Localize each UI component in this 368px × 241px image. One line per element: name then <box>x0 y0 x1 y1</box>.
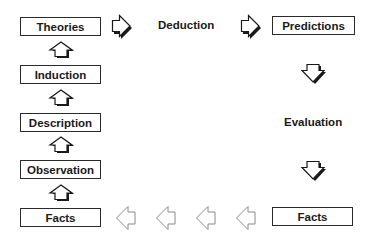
left-arrow-icon <box>155 205 177 231</box>
label-evaluation: Evaluation <box>284 116 342 128</box>
box-induction: Induction <box>20 65 101 84</box>
right-arrow-icon <box>111 14 133 40</box>
box-facts-right: Facts <box>272 207 353 226</box>
left-arrow-icon <box>115 205 137 231</box>
left-arrow-icon <box>235 205 257 231</box>
up-arrow-icon <box>47 184 75 202</box>
up-arrow-icon <box>47 136 75 154</box>
label-deduction: Deduction <box>158 19 214 31</box>
left-arrow-icon <box>195 205 217 231</box>
box-predictions: Predictions <box>272 16 355 35</box>
box-theories: Theories <box>20 17 101 36</box>
up-arrow-icon <box>47 41 75 59</box>
down-arrow-icon <box>299 160 327 182</box>
up-arrow-icon <box>47 89 75 107</box>
right-arrow-icon <box>240 14 262 40</box>
box-facts-left: Facts <box>20 208 101 227</box>
box-observation: Observation <box>20 160 101 179</box>
down-arrow-icon <box>299 63 327 85</box>
box-description: Description <box>20 113 101 132</box>
